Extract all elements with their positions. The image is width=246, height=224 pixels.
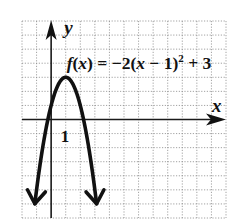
eq-var2: x: [135, 53, 145, 73]
eq-end: + 3: [184, 53, 212, 73]
eq-tail: − 1): [145, 53, 178, 73]
x-axis-label: x: [211, 95, 222, 116]
function-equation-label: f(x) = −2(x − 1)2 + 3: [67, 52, 212, 73]
eq-var: x: [77, 53, 87, 73]
arrows: [27, 20, 226, 204]
eq-middle: ) = −2(: [87, 53, 136, 73]
parabola-graph: y x 1 f(x) = −2(x − 1)2 + 3: [0, 0, 246, 224]
x-tick-label-1: 1: [61, 127, 70, 146]
y-axis-label: y: [62, 17, 73, 38]
